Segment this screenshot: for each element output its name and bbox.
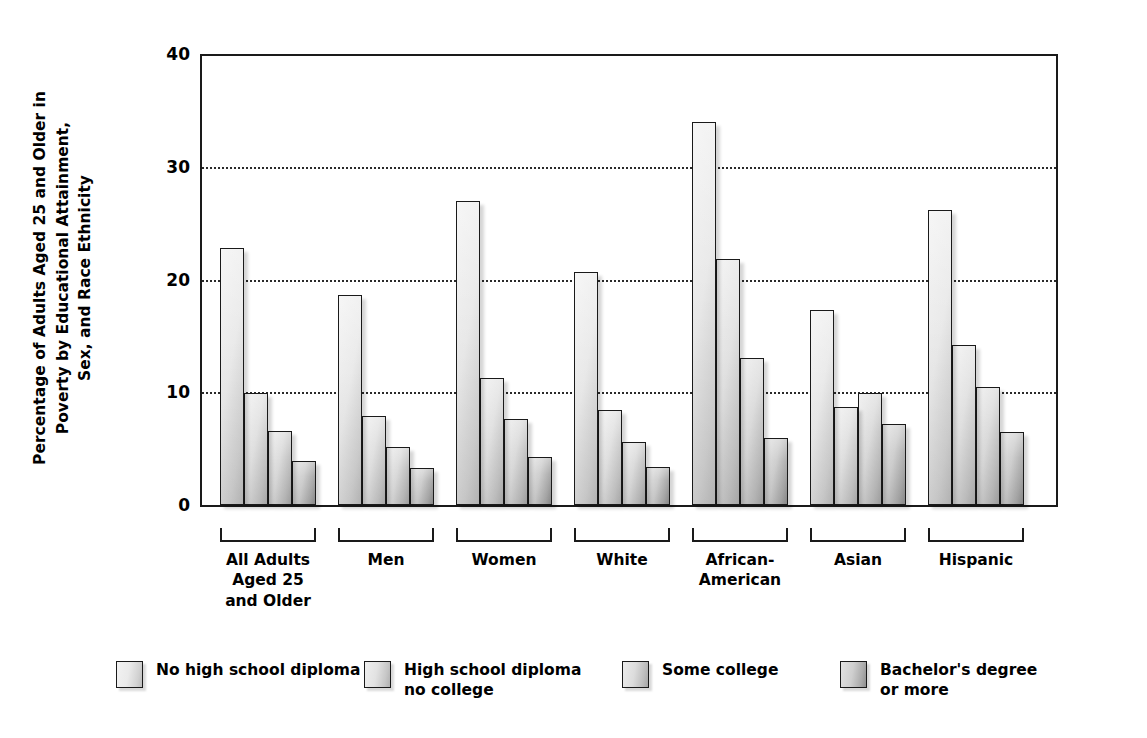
bar-3-1[interactable] bbox=[598, 410, 622, 505]
legend-label-0: No high school diploma bbox=[156, 660, 360, 680]
category-bracket-0 bbox=[220, 528, 316, 542]
bar-3-3[interactable] bbox=[646, 467, 670, 505]
bar-0-2[interactable] bbox=[268, 431, 292, 505]
bar-4-3[interactable] bbox=[764, 438, 788, 505]
category-bracket-3 bbox=[574, 528, 670, 542]
bar-6-1[interactable] bbox=[952, 345, 976, 505]
bar-1-0[interactable] bbox=[338, 295, 362, 505]
legend-swatch-2 bbox=[622, 661, 649, 688]
bar-4-1[interactable] bbox=[716, 259, 740, 505]
y-axis-title-line-1: Percentage of Adults Aged 25 and Older i… bbox=[29, 91, 51, 465]
category-label-0-line-2: and Older bbox=[198, 591, 338, 611]
legend-label-1: High school diploma no college bbox=[404, 660, 581, 700]
y-tick-label-20: 20 bbox=[146, 270, 190, 290]
y-tick-label-30: 30 bbox=[146, 157, 190, 177]
bar-6-0[interactable] bbox=[928, 210, 952, 505]
bar-5-3[interactable] bbox=[882, 424, 906, 505]
legend-item-3[interactable]: Bachelor's degree or more bbox=[840, 660, 1070, 700]
bar-2-1[interactable] bbox=[480, 378, 504, 505]
legend-item-1[interactable]: High school diploma no college bbox=[364, 660, 622, 700]
bar-3-0[interactable] bbox=[574, 272, 598, 505]
x-axis-baseline bbox=[200, 505, 1058, 507]
legend-item-2[interactable]: Some college bbox=[622, 660, 840, 688]
category-label-6-line-0: Hispanic bbox=[906, 550, 1046, 570]
bar-2-0[interactable] bbox=[456, 201, 480, 505]
legend-swatch-1 bbox=[364, 661, 391, 688]
bar-0-0[interactable] bbox=[220, 248, 244, 505]
legend-label-3: Bachelor's degree or more bbox=[880, 660, 1037, 700]
category-label-6: Hispanic bbox=[906, 550, 1046, 570]
legend-item-0[interactable]: No high school diploma bbox=[116, 660, 364, 688]
gridline-30 bbox=[202, 167, 1056, 169]
bar-1-3[interactable] bbox=[410, 468, 434, 505]
legend-swatch-0 bbox=[116, 661, 143, 688]
bar-0-1[interactable] bbox=[244, 393, 268, 505]
chart-legend: No high school diplomaHigh school diplom… bbox=[116, 660, 1076, 700]
legend-label-2: Some college bbox=[662, 660, 778, 680]
bar-4-2[interactable] bbox=[740, 358, 764, 505]
category-bracket-5 bbox=[810, 528, 906, 542]
bar-0-3[interactable] bbox=[292, 461, 316, 505]
y-tick-label-10: 10 bbox=[146, 382, 190, 402]
bar-5-1[interactable] bbox=[834, 407, 858, 505]
bar-5-0[interactable] bbox=[810, 310, 834, 505]
y-axis-tick-labels: 010203040 bbox=[140, 0, 190, 738]
bar-2-2[interactable] bbox=[504, 419, 528, 505]
bar-1-1[interactable] bbox=[362, 416, 386, 505]
y-axis-title-line-3: Sex, and Race Ethnicity bbox=[74, 91, 96, 465]
category-label-4-line-1: American bbox=[670, 570, 810, 590]
category-bracket-1 bbox=[338, 528, 434, 542]
category-bracket-4 bbox=[692, 528, 788, 542]
y-tick-label-40: 40 bbox=[146, 44, 190, 64]
bar-3-2[interactable] bbox=[622, 442, 646, 505]
bar-2-3[interactable] bbox=[528, 457, 552, 505]
legend-swatch-3 bbox=[840, 661, 867, 688]
bar-1-2[interactable] bbox=[386, 447, 410, 505]
category-bracket-6 bbox=[928, 528, 1024, 542]
y-tick-label-0: 0 bbox=[146, 495, 190, 515]
bar-4-0[interactable] bbox=[692, 122, 716, 505]
category-label-0-line-1: Aged 25 bbox=[198, 570, 338, 590]
bar-6-2[interactable] bbox=[976, 387, 1000, 505]
bar-5-2[interactable] bbox=[858, 393, 882, 505]
y-axis-title-line-2: Poverty by Educational Attainment, bbox=[52, 91, 74, 465]
bar-6-3[interactable] bbox=[1000, 432, 1024, 505]
category-bracket-2 bbox=[456, 528, 552, 542]
